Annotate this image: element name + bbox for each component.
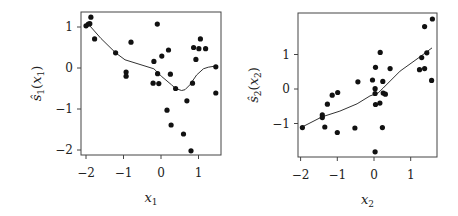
- data-point: [373, 149, 378, 154]
- data-point: [373, 65, 378, 70]
- data-point: [155, 22, 160, 27]
- y-tick-label: −1: [272, 117, 290, 131]
- data-point: [355, 79, 360, 84]
- data-point: [213, 90, 218, 95]
- x-axis-label: x2: [361, 192, 374, 209]
- data-point: [196, 46, 201, 51]
- data-point: [320, 115, 325, 120]
- data-point: [173, 86, 178, 91]
- data-point: [422, 66, 427, 71]
- y-tick-label: −2: [55, 143, 73, 157]
- data-point: [193, 57, 198, 62]
- x-tick-label: −1: [115, 166, 133, 180]
- data-point: [370, 77, 375, 82]
- data-point: [92, 36, 97, 41]
- data-point: [128, 40, 133, 45]
- y-tick-label: 0: [282, 82, 290, 96]
- data-point: [203, 46, 208, 51]
- x-tick-label: −1: [328, 168, 346, 182]
- x-tick-label: −2: [77, 166, 95, 180]
- data-point: [151, 59, 156, 64]
- data-point: [188, 148, 193, 153]
- data-point: [388, 66, 393, 71]
- data-point: [380, 125, 385, 130]
- data-point: [169, 122, 174, 127]
- plot-frame: [298, 13, 437, 157]
- data-point: [181, 131, 186, 136]
- data-point: [322, 124, 327, 129]
- data-point: [424, 50, 429, 55]
- x-tick-label: −2: [292, 168, 310, 182]
- x-tick-label: 0: [370, 168, 378, 182]
- data-point: [330, 93, 335, 98]
- chart-canvas: −2−101−2−101x1ŝ1(x1) −2−101−101x2ŝ2(x2): [0, 0, 458, 216]
- data-point: [168, 72, 173, 77]
- data-point: [373, 91, 378, 96]
- data-point: [213, 64, 218, 69]
- data-point: [380, 79, 385, 84]
- data-point: [373, 102, 378, 107]
- y-axis-label: ŝ1(x1): [29, 66, 46, 102]
- plot-s2-x2: −2−101−101x2ŝ2(x2): [246, 13, 437, 209]
- data-point: [184, 98, 189, 103]
- data-point: [325, 102, 330, 107]
- data-point: [373, 86, 378, 91]
- y-tick-label: −1: [55, 102, 73, 116]
- data-point: [335, 130, 340, 135]
- data-point: [378, 50, 383, 55]
- y-axis-label: ŝ2(x2): [246, 67, 263, 103]
- data-point: [190, 81, 195, 86]
- data-point: [87, 21, 92, 26]
- y-tick-label: 1: [282, 48, 290, 62]
- plot-s1-x1: −2−101−2−101x1ŝ1(x1): [29, 12, 221, 207]
- data-point: [335, 90, 340, 95]
- data-point: [417, 67, 422, 72]
- data-point: [151, 81, 156, 86]
- data-point: [155, 71, 160, 76]
- data-point: [113, 50, 118, 55]
- data-point: [377, 101, 382, 106]
- y-tick-label: 1: [65, 20, 73, 34]
- data-point: [191, 45, 196, 50]
- data-point: [166, 47, 171, 52]
- x-tick-label: 1: [407, 168, 415, 182]
- x-tick-label: 1: [195, 166, 203, 180]
- data-point: [156, 81, 161, 86]
- data-point: [419, 55, 424, 60]
- data-point: [422, 24, 427, 29]
- data-point: [88, 15, 93, 20]
- x-axis-label: x1: [144, 190, 157, 207]
- data-point: [300, 125, 305, 130]
- data-point: [429, 78, 434, 83]
- data-point: [198, 36, 203, 41]
- data-point: [352, 125, 357, 130]
- data-point: [383, 92, 388, 97]
- data-point: [124, 74, 129, 79]
- x-tick-label: 0: [157, 166, 165, 180]
- data-point: [430, 16, 435, 21]
- y-tick-label: 0: [65, 61, 73, 75]
- data-point: [164, 108, 169, 113]
- data-point: [159, 54, 164, 59]
